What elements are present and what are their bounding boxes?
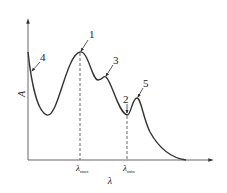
arrow-1 [81,40,88,51]
arrow-5 [138,88,143,97]
x-axis-label: λ [107,175,113,186]
label-point-3: 3 [113,54,119,66]
spectrum-curve [28,52,186,160]
lambda-min-label: λmin [122,163,135,174]
label-point-1: 1 [89,28,95,40]
label-point-4: 4 [40,51,46,63]
label-point-2: 2 [123,93,129,105]
arrow-3 [106,65,113,76]
absorption-spectrum-chart: 1 3 4 2 5 A λ λmax λmin [0,0,227,193]
lambda-max-label: λmax [75,163,89,174]
y-axis-label: A [16,90,27,98]
label-point-5: 5 [143,77,149,89]
arrow-4 [32,62,40,71]
